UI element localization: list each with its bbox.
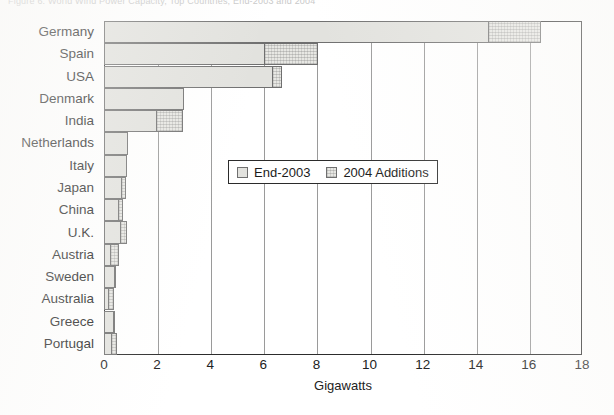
bar-segment-end-2003 — [104, 199, 119, 221]
x-tick-label-4: 4 — [206, 358, 214, 372]
x-tick-label-12: 12 — [415, 358, 430, 372]
bar-row — [104, 199, 123, 221]
bar-row — [104, 221, 127, 243]
x-tick-label-0: 0 — [100, 358, 108, 372]
bar-row — [104, 88, 184, 110]
bar-segment-2004-additions — [111, 333, 117, 355]
bar-segment-end-2003 — [104, 66, 273, 88]
bar-row — [104, 110, 183, 132]
legend-label-2004-additions: 2004 Additions — [343, 165, 428, 180]
bar-segment-2004-additions — [121, 177, 126, 199]
wind-capacity-bar-chart: Figure 6. World Wind Power Capacity, Top… — [0, 0, 614, 415]
bar-row — [104, 333, 117, 355]
bars-layer — [104, 21, 582, 355]
category-label-greece: Greece — [50, 315, 94, 329]
bar-row — [104, 177, 126, 199]
bar-segment-end-2003 — [104, 221, 121, 243]
bar-row — [104, 311, 115, 333]
bar-segment-2004-additions — [488, 21, 541, 43]
bar-row — [104, 132, 128, 154]
x-tick-label-6: 6 — [260, 358, 268, 372]
bar-segment-2004-additions — [264, 43, 318, 65]
bar-row — [104, 155, 127, 177]
x-axis-title: Gigawatts — [104, 378, 582, 393]
category-label-denmark: Denmark — [39, 92, 94, 106]
category-label-germany: Germany — [38, 25, 94, 39]
category-label-australia: Australia — [41, 292, 94, 306]
bar-segment-2004-additions — [120, 221, 127, 243]
x-tick-label-18: 18 — [574, 358, 589, 372]
bar-segment-2004-additions — [113, 311, 115, 333]
category-label-u-k: U.K. — [68, 226, 94, 240]
bar-row — [104, 21, 541, 43]
bar-row — [104, 244, 119, 266]
value-axis-labels: 024681012141618 — [104, 358, 582, 378]
category-label-usa: USA — [66, 70, 94, 84]
bar-segment-end-2003 — [104, 43, 265, 65]
bar-row — [104, 288, 114, 310]
x-tick-label-2: 2 — [153, 358, 161, 372]
category-label-sweden: Sweden — [45, 270, 94, 284]
category-axis-labels: GermanySpainUSADenmarkIndiaNetherlandsIt… — [0, 21, 98, 355]
bar-segment-2004-additions — [156, 110, 183, 132]
bar-segment-end-2003 — [104, 88, 184, 110]
bar-segment-2004-additions — [110, 244, 118, 266]
bar-segment-2004-additions — [114, 266, 116, 288]
figure-caption: Figure 6. World Wind Power Capacity, Top… — [8, 0, 428, 8]
category-label-china: China — [59, 203, 94, 217]
category-label-italy: Italy — [69, 159, 94, 173]
legend-item-end-2003: End-2003 — [237, 165, 310, 180]
x-tick-label-14: 14 — [468, 358, 483, 372]
bar-segment-2004-additions — [108, 288, 113, 310]
category-label-netherlands: Netherlands — [21, 136, 94, 150]
legend-swatch-icon-end-2003 — [237, 167, 248, 178]
legend-swatch-icon-2004-additions — [326, 167, 337, 178]
bar-row — [104, 43, 318, 65]
bar-segment-end-2003 — [104, 177, 122, 199]
category-label-japan: Japan — [57, 181, 94, 195]
legend-item-2004-additions: 2004 Additions — [326, 165, 428, 180]
bar-row — [104, 266, 116, 288]
bar-segment-end-2003 — [104, 21, 489, 43]
category-label-india: India — [65, 114, 94, 128]
bar-segment-2004-additions — [118, 199, 123, 221]
chart-legend: End-2003 2004 Additions — [228, 160, 438, 184]
bar-segment-2004-additions — [272, 66, 283, 88]
category-label-austria: Austria — [52, 248, 94, 262]
bar-row — [104, 66, 282, 88]
legend-label-end-2003: End-2003 — [254, 165, 310, 180]
bar-segment-end-2003 — [104, 110, 157, 132]
category-label-spain: Spain — [59, 47, 94, 61]
x-tick-label-8: 8 — [313, 358, 321, 372]
category-label-portugal: Portugal — [44, 337, 94, 351]
bar-segment-end-2003 — [104, 155, 127, 177]
x-tick-label-16: 16 — [521, 358, 536, 372]
bar-segment-end-2003 — [104, 132, 128, 154]
x-tick-label-10: 10 — [362, 358, 377, 372]
